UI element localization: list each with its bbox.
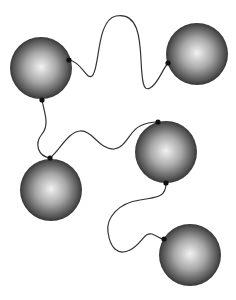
string-s1-s4 (38, 100, 50, 158)
string-s3-s5 (108, 183, 166, 252)
attachment-dot (165, 60, 170, 65)
network-diagram (0, 0, 236, 300)
attachment-dot (163, 180, 168, 185)
attachment-dot (39, 97, 44, 102)
sphere-s1 (10, 37, 72, 99)
attachment-dot (155, 119, 160, 124)
string-s1-s2 (69, 16, 168, 89)
sphere-s3 (135, 121, 197, 183)
attachment-dot (47, 155, 52, 160)
attachment-dot (66, 57, 71, 62)
attachment-dot (161, 236, 166, 241)
sphere-s2 (166, 23, 228, 85)
sphere-s5 (159, 224, 221, 286)
sphere-s4 (20, 159, 82, 221)
